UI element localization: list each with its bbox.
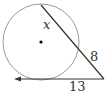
label-8: 8 [90,49,98,64]
label-x: x [43,17,51,32]
arrowhead-icon [14,77,21,82]
center-point [39,40,42,43]
geometry-diagram: x 8 13 [0,0,107,92]
label-13: 13 [69,79,86,92]
secant-line [41,5,104,79]
